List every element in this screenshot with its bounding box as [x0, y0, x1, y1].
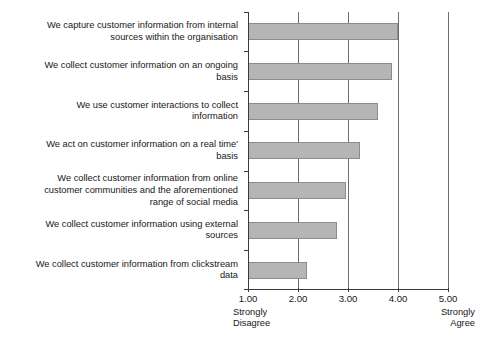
- gridline-5: [448, 12, 449, 290]
- bar: [248, 222, 337, 239]
- x-axis-tick: [298, 288, 299, 292]
- category-label: We collect customer information using ex…: [0, 211, 243, 251]
- x-axis-tick-label: 2.00: [289, 293, 308, 304]
- bar-row: [248, 52, 448, 92]
- scale-anchor-high: Strongly Agree: [395, 307, 475, 330]
- x-axis-tick: [448, 288, 449, 292]
- horizontal-bar-chart: We capture customer information from int…: [0, 0, 486, 351]
- bars-layer: [248, 12, 448, 290]
- bar: [248, 182, 346, 199]
- y-axis-tick: [244, 91, 248, 92]
- bar: [248, 23, 398, 40]
- x-axis-tick: [248, 288, 249, 292]
- y-axis-tick: [244, 12, 248, 13]
- x-axis-tick-label: 5.00: [439, 293, 458, 304]
- x-axis-tick-labels: 1.00 2.00 3.00 4.00 5.00: [0, 291, 486, 307]
- bar-row: [248, 250, 448, 290]
- bar-row: [248, 171, 448, 211]
- category-label-column: We capture customer information from int…: [0, 12, 243, 290]
- bar-row: [248, 211, 448, 251]
- x-axis-tick-label: 3.00: [339, 293, 358, 304]
- bar-row: [248, 12, 448, 52]
- x-axis-tick-label: 4.00: [389, 293, 408, 304]
- category-label: We collect customer information from cli…: [0, 250, 243, 290]
- category-label: We use customer interactions to collect …: [0, 91, 243, 131]
- scale-anchor-low: Strongly Disagree: [233, 307, 323, 330]
- y-axis-tick: [244, 250, 248, 251]
- x-axis-tick: [398, 288, 399, 292]
- y-axis-tick: [244, 51, 248, 52]
- y-axis-line: [248, 12, 249, 290]
- y-axis-tick: [244, 131, 248, 132]
- category-label: We collect customer information from onl…: [0, 171, 243, 211]
- bar: [248, 103, 378, 120]
- x-axis-tick-label: 1.00: [239, 293, 258, 304]
- category-label: We capture customer information from int…: [0, 12, 243, 52]
- bar-row: [248, 91, 448, 131]
- x-axis-tick: [348, 288, 349, 292]
- category-label: We collect customer information on an on…: [0, 52, 243, 92]
- category-label: We act on customer information on a real…: [0, 131, 243, 171]
- bar-row: [248, 131, 448, 171]
- y-axis-tick: [244, 210, 248, 211]
- y-axis-tick: [244, 171, 248, 172]
- plot-area: [248, 12, 448, 290]
- bar: [248, 63, 392, 80]
- bar: [248, 262, 307, 279]
- bar: [248, 142, 360, 159]
